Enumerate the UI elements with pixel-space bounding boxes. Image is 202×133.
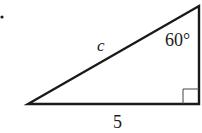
- base-label: 5: [113, 112, 122, 132]
- right-angle-marker: [183, 89, 199, 104]
- triangle-diagram: c 60° 5: [0, 0, 202, 133]
- angle-label: 60°: [165, 30, 190, 50]
- bullet-marker: [0, 15, 3, 18]
- right-triangle: [28, 6, 199, 104]
- hypotenuse-label: c: [97, 36, 105, 55]
